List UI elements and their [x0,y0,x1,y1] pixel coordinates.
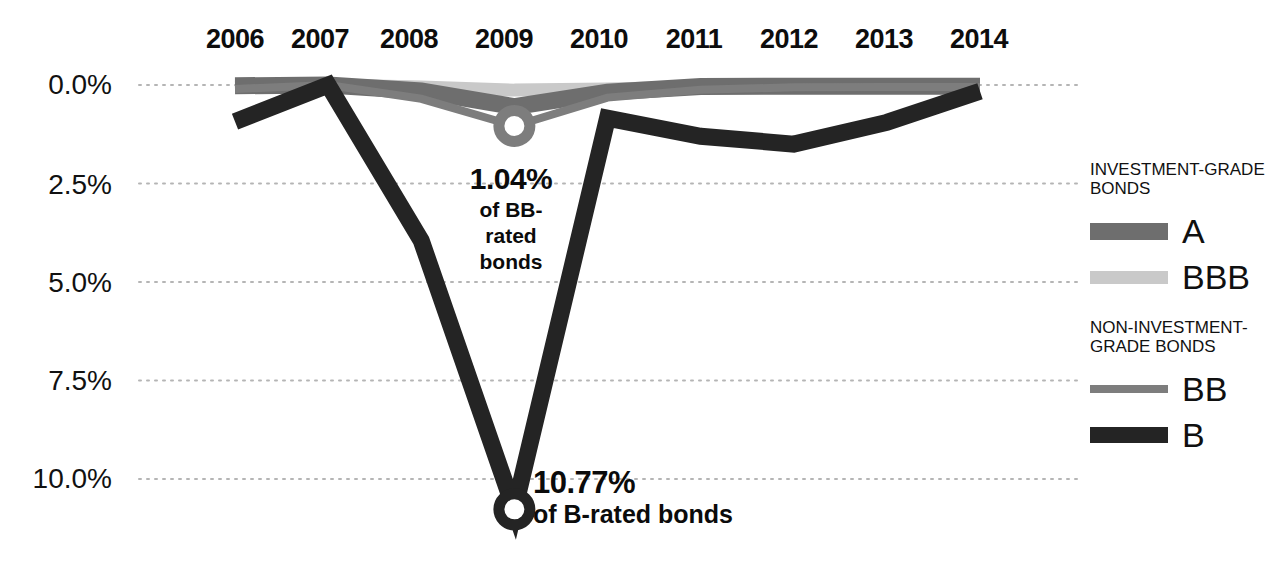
legend-swatch-bbb-icon [1090,271,1168,284]
legend-label-bb: BB [1182,372,1227,406]
legend-item-b[interactable]: B [1090,412,1280,458]
annotation-b-value: 10.77% [533,466,833,499]
legend-swatch-b-icon [1090,427,1168,443]
annotation-b-text: of B-rated bonds [533,501,833,528]
legend-swatch-a-icon [1090,223,1168,240]
annotation-bb-line2: rated [452,225,570,247]
legend-label-b: B [1182,418,1205,452]
legend-item-bb[interactable]: BB [1090,366,1280,412]
series-lines [235,85,980,509]
marker-bb-2009 [499,110,530,141]
annotation-bb-line1: of BB- [452,199,570,221]
legend: INVESTMENT-GRADE BONDS A BBB NON-INVESTM… [1090,160,1280,458]
marker-b-2009 [499,494,530,525]
annotation-bb-callout: 1.04% of BB- rated bonds [452,163,570,274]
annotation-bb-line3: bonds [452,251,570,273]
legend-label-bbb: BBB [1182,260,1250,294]
legend-group-investment-grade: INVESTMENT-GRADE BONDS [1090,160,1280,198]
legend-group-non-investment-grade: NON-INVESTMENT-GRADE BONDS [1090,318,1280,356]
annotation-bb-value: 1.04% [452,163,570,195]
series-line-b [235,85,980,509]
legend-item-a[interactable]: A [1090,208,1280,254]
annotation-b-callout: 10.77% of B-rated bonds [533,466,833,528]
legend-label-a: A [1182,214,1205,248]
default-rate-line-chart: 0.0% 2.5% 5.0% 7.5% 10.0% 2006 2007 2008… [0,0,1280,566]
legend-swatch-bb-icon [1090,385,1168,393]
legend-item-bbb[interactable]: BBB [1090,254,1280,300]
